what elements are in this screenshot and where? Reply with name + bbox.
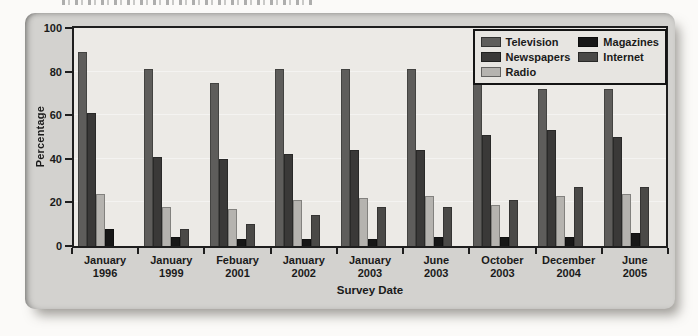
x-category-label: October 2003	[469, 254, 535, 280]
bar	[162, 207, 171, 246]
bar	[491, 205, 500, 246]
bar	[144, 69, 153, 246]
y-tick	[65, 114, 73, 116]
y-tick-label: 80	[29, 67, 62, 78]
legend-item: Newspapers	[481, 50, 571, 64]
x-category-label: January 2003	[337, 254, 403, 280]
bar-group	[74, 28, 140, 246]
bar	[284, 154, 293, 246]
bar	[538, 89, 547, 246]
legend-swatch	[481, 52, 501, 62]
bar	[87, 113, 96, 246]
bar	[368, 239, 377, 246]
bar	[237, 239, 246, 246]
bar	[473, 72, 482, 246]
bar	[622, 194, 631, 246]
x-category-label: January 2002	[271, 254, 337, 280]
bar	[443, 207, 452, 246]
legend: TelevisionNewspapersRadioMagazinesIntern…	[473, 29, 667, 85]
bar	[311, 215, 320, 246]
bar-group	[140, 28, 206, 246]
bar	[302, 239, 311, 246]
bar-group	[403, 28, 469, 246]
bar	[565, 237, 574, 246]
bar	[416, 150, 425, 246]
bar	[359, 198, 368, 246]
bar-group	[271, 28, 337, 246]
y-tick	[65, 27, 73, 29]
bar	[246, 224, 255, 246]
y-tick-label: 0	[29, 241, 62, 252]
bar-group	[206, 28, 272, 246]
bar	[434, 237, 443, 246]
legend-item: Radio	[481, 65, 571, 79]
x-category-label: January 1996	[72, 254, 138, 280]
y-tick	[65, 158, 73, 160]
y-tick-label: 60	[29, 110, 62, 121]
bar	[640, 187, 649, 246]
cropped-text-fragment	[62, 0, 314, 5]
y-tick	[65, 201, 73, 203]
bar	[210, 83, 219, 247]
y-tick	[65, 71, 73, 73]
legend-label: Internet	[603, 51, 643, 63]
y-tick-label: 40	[29, 154, 62, 165]
bar	[509, 200, 518, 246]
bar	[377, 207, 386, 246]
bar	[556, 196, 565, 246]
bar-group	[337, 28, 403, 246]
x-category-label: June 2003	[403, 254, 469, 280]
x-category-label: Febuary 2001	[205, 254, 271, 280]
bar	[482, 135, 491, 246]
bar	[171, 237, 180, 246]
bar	[153, 157, 162, 246]
legend-item: Television	[481, 35, 571, 49]
bar	[78, 52, 87, 246]
bar	[547, 130, 556, 246]
legend-swatch	[481, 37, 501, 47]
bar	[105, 229, 114, 246]
bar	[275, 69, 284, 246]
bar	[500, 237, 509, 246]
legend-swatch	[578, 52, 598, 62]
legend-label: Radio	[506, 66, 537, 78]
bar	[350, 150, 359, 246]
bar	[407, 69, 416, 246]
bar	[574, 187, 583, 246]
legend-label: Magazines	[603, 36, 659, 48]
x-category-label: December 2004	[536, 254, 602, 280]
plot-area: TelevisionNewspapersRadioMagazinesIntern…	[72, 26, 668, 248]
legend-swatch	[578, 37, 598, 47]
bar	[219, 159, 228, 246]
bar	[425, 196, 434, 246]
legend-label: Newspapers	[506, 51, 571, 63]
y-tick-label: 100	[29, 23, 62, 34]
bar	[604, 89, 613, 246]
x-axis-title: Survey Date	[72, 284, 668, 296]
bar	[228, 209, 237, 246]
x-category-label: June 2005	[602, 254, 668, 280]
legend-swatch	[481, 67, 501, 77]
bar	[180, 229, 189, 246]
bar	[613, 137, 622, 246]
scanned-page: Percentage TelevisionNewspapersRadioMaga…	[0, 0, 698, 336]
bar	[341, 69, 350, 246]
y-tick-label: 20	[29, 197, 62, 208]
y-axis-title-wrap: Percentage	[34, 26, 46, 248]
legend-item: Internet	[578, 50, 659, 64]
legend-label: Television	[506, 36, 559, 48]
legend-item: Magazines	[578, 35, 659, 49]
x-category-label: January 1999	[138, 254, 204, 280]
bar	[631, 233, 640, 246]
bar	[96, 194, 105, 246]
y-tick	[65, 245, 73, 247]
figure-card: Percentage TelevisionNewspapersRadioMaga…	[25, 13, 675, 309]
bar	[293, 200, 302, 246]
